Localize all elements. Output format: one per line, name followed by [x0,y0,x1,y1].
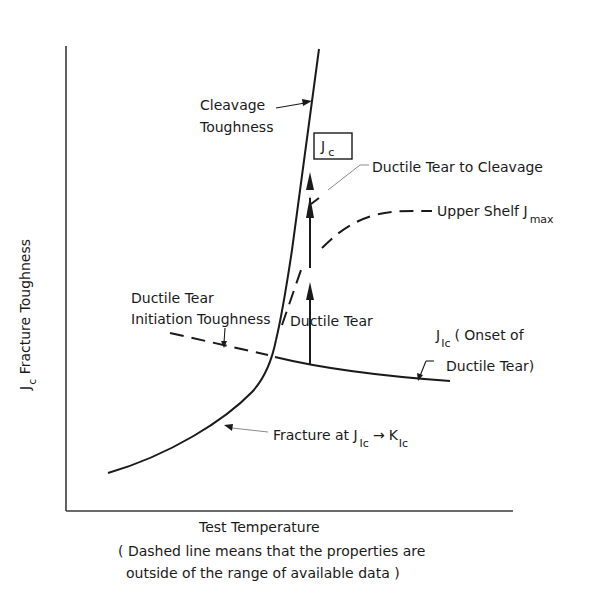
fracture-toughness-diagram: Jc Fracture Toughness Jc Cleavage Toughn… [0,0,595,601]
jic-onset-line [275,357,450,381]
upper-shelf-label: Upper Shelf Jmax [437,203,554,226]
cleavage-toughness-label-1: Cleavage [200,97,265,113]
initiation-toughness-dashed-line [170,333,268,355]
jic-leader-arrow [417,361,434,381]
tear-to-cleavage-label: Ductile Tear to Cleavage [372,159,543,175]
jic-onset-label: JIc( Onset of Ductile Tear) [435,327,534,374]
cleavage-toughness-label-2: Toughness [199,119,273,135]
cleavage-leader-arrow [276,99,312,108]
caption-line-2: outside of the range of available data ) [126,565,400,581]
upper-shelf-dashed-curve [322,211,432,248]
svg-text:Ductile Tear): Ductile Tear) [446,358,534,374]
ductile-tear-label: Ductile Tear [290,313,373,329]
lower-transition-curve [108,340,276,473]
initiation-label-1: Ductile Tear [131,290,214,306]
fracture-label: Fracture at JIc→KIc [273,427,408,450]
initiation-label-2: Initiation Toughness [131,311,271,327]
tear-to-cleavage-leader [311,165,369,204]
ductile-tear-arrow [306,172,314,365]
svg-text:JIc( Onset of: JIc( Onset of [435,327,525,350]
fracture-leader-arrow [224,424,268,432]
svg-text:Fracture at JIc→KIc: Fracture at JIc→KIc [273,427,408,450]
caption-line-1: ( Dashed line means that the properties … [118,543,425,559]
jc-label-box: Jc [314,133,352,159]
y-axis-label: Jc Fracture Toughness [17,239,39,391]
svg-text:Upper Shelf Jmax: Upper Shelf Jmax [437,203,554,226]
x-axis-label: Test Temperature [198,519,320,535]
